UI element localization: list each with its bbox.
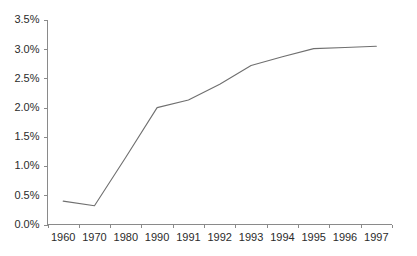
y-tick-label: 0.5% (14, 189, 39, 201)
line-chart: 0.0%0.5%1.0%1.5%2.0%2.5%3.0%3.5% 1960197… (0, 0, 417, 256)
y-tick-label: 1.5% (14, 130, 39, 142)
x-tick-label: 1993 (239, 231, 263, 243)
y-axis-ticks (44, 21, 48, 226)
chart-container: 0.0%0.5%1.0%1.5%2.0%2.5%3.0%3.5% 1960197… (0, 0, 417, 256)
x-tick-label: 1960 (51, 231, 75, 243)
x-tick-label: 1997 (364, 231, 388, 243)
x-tick-label: 1995 (301, 231, 325, 243)
x-axis-ticks (49, 225, 393, 229)
y-tick-label: 2.0% (14, 101, 39, 113)
data-series-line (63, 46, 376, 206)
y-tick-label: 3.5% (14, 13, 39, 25)
x-tick-label: 1992 (208, 231, 232, 243)
x-tick-label: 1996 (333, 231, 357, 243)
x-axis-tick-labels: 1960197019801990199119921993199419951996… (51, 231, 389, 243)
x-tick-label: 1970 (82, 231, 106, 243)
x-tick-label: 1991 (176, 231, 200, 243)
y-tick-label: 1.0% (14, 159, 39, 171)
x-tick-label: 1980 (114, 231, 138, 243)
y-axis-tick-labels: 0.0%0.5%1.0%1.5%2.0%2.5%3.0%3.5% (14, 13, 39, 230)
y-tick-label: 3.0% (14, 43, 39, 55)
y-tick-label: 2.5% (14, 72, 39, 84)
y-tick-label: 0.0% (14, 218, 39, 230)
x-tick-label: 1990 (145, 231, 169, 243)
x-tick-label: 1994 (270, 231, 294, 243)
